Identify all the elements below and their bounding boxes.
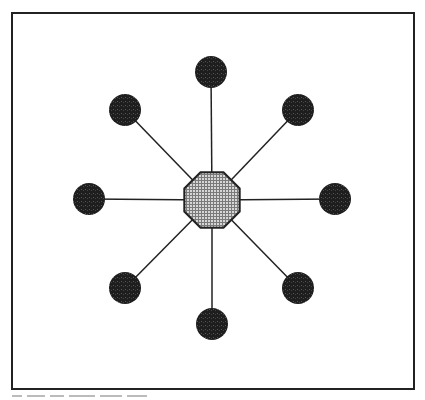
node-bottom <box>196 308 228 340</box>
node-left <box>73 183 105 215</box>
hub-octagon <box>184 172 239 227</box>
node-top-left <box>109 94 141 126</box>
node-right <box>319 183 351 215</box>
node-bottom-left <box>109 272 141 304</box>
star-topology-diagram <box>0 0 425 400</box>
node-top <box>195 56 227 88</box>
node-top-right <box>282 94 314 126</box>
node-bottom-right <box>282 272 314 304</box>
figure-caption-truncated <box>12 395 182 400</box>
